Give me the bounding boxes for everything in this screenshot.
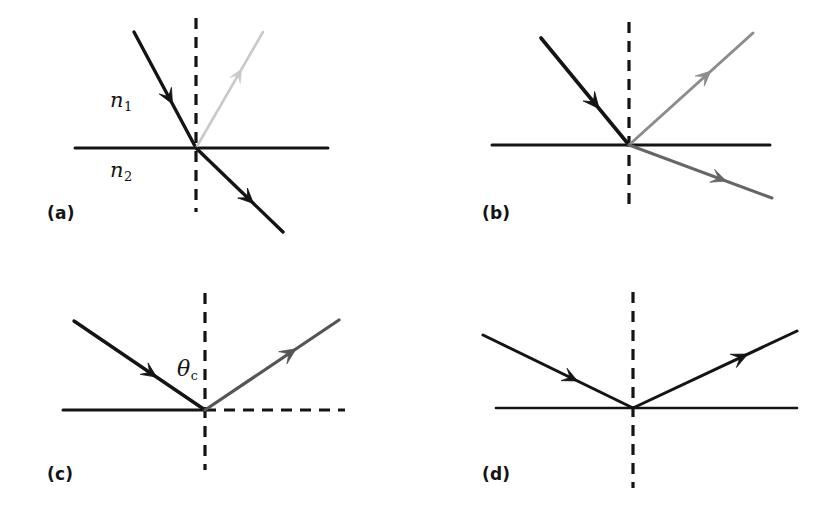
panel-d	[483, 292, 797, 488]
refracted-ray-line	[196, 148, 283, 232]
panel-label-d: (d)	[482, 464, 510, 484]
refracted-ray-line	[629, 145, 772, 198]
reflected-ray-line	[196, 32, 263, 148]
refracted-ray	[629, 145, 772, 198]
reflected-ray	[629, 33, 753, 145]
panel-label-c: (c)	[47, 464, 73, 484]
reflected-ray	[633, 331, 797, 408]
reflected-ray-line	[629, 33, 753, 145]
refracted-ray	[196, 148, 283, 232]
incident-ray	[134, 32, 196, 148]
reflected-ray	[205, 320, 339, 410]
reflected-ray-line	[205, 320, 339, 410]
panel-a	[75, 18, 328, 232]
incident-ray-line	[483, 335, 633, 408]
panel-label-b: (b)	[482, 203, 510, 223]
reflected-ray	[196, 32, 263, 148]
label-n2-panel-a: n2	[110, 158, 132, 184]
panel-b	[492, 22, 772, 212]
incident-ray-line	[134, 32, 196, 148]
ray-diagram-canvas	[0, 0, 828, 515]
panel-c	[63, 293, 345, 470]
incident-ray	[541, 38, 629, 145]
incident-ray	[483, 335, 633, 408]
physics-figure: (a)n1n2(b)(c)θc(d)	[0, 0, 828, 515]
reflected-ray-line	[633, 331, 797, 408]
panel-label-a: (a)	[47, 203, 75, 223]
label-n1-panel-a: n1	[110, 88, 132, 114]
incident-ray-line	[541, 38, 629, 145]
label-theta-c-panel-c: θc	[177, 356, 198, 383]
